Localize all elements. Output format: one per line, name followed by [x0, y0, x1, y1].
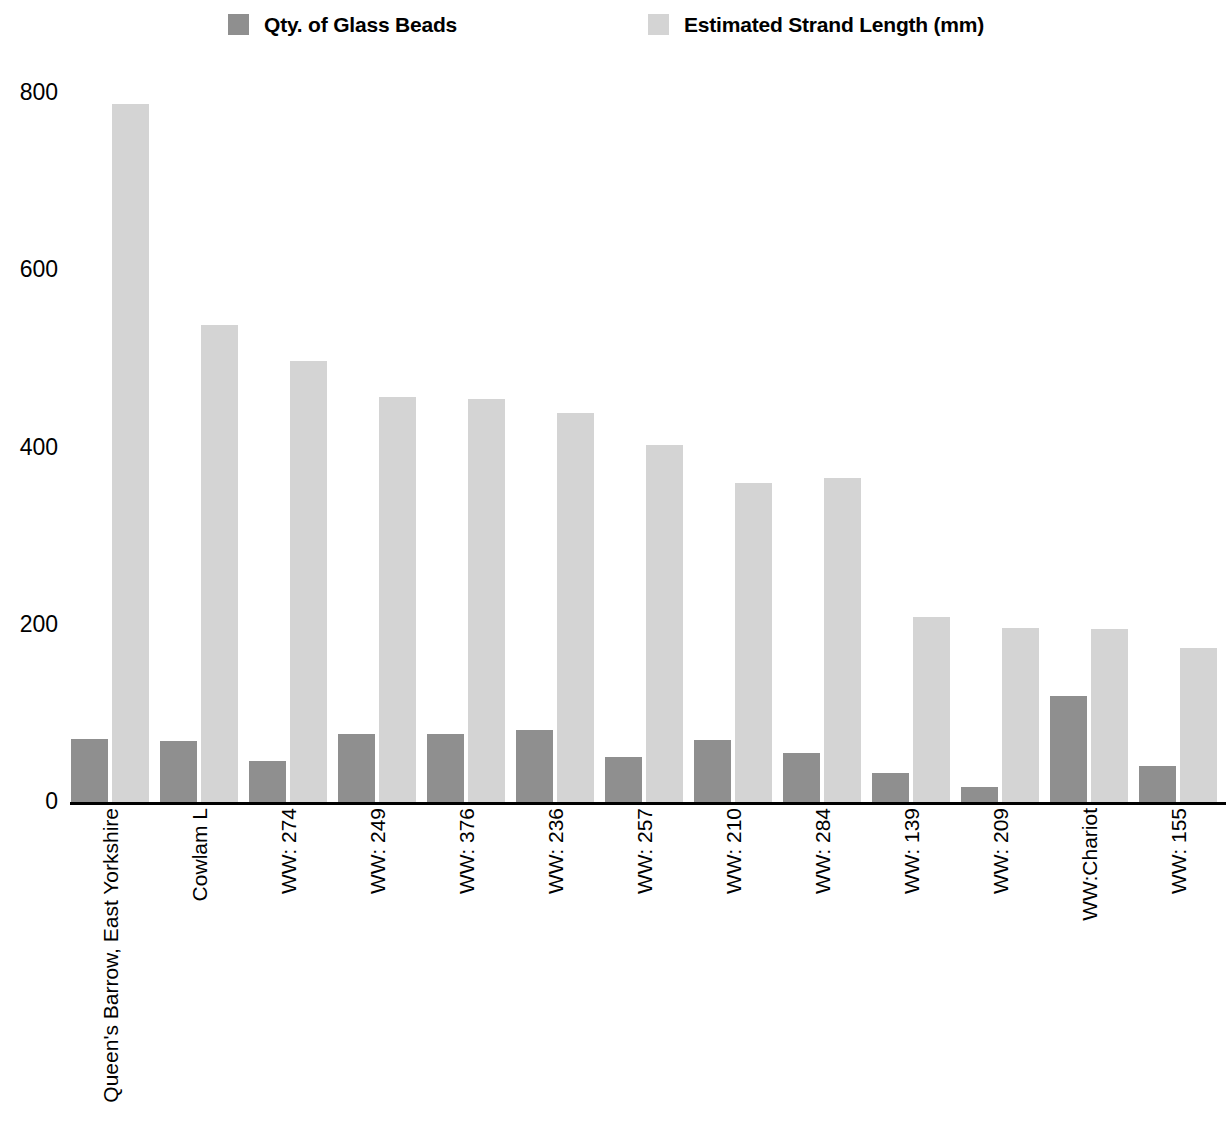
- x-tick-label: WW:Chariot: [1078, 808, 1099, 921]
- x-label-slot: WW: 284: [783, 808, 861, 1108]
- x-tick-label: Queen's Barrow, East Yorkshire: [100, 808, 121, 1103]
- bar-group: [338, 93, 416, 802]
- x-label-slot: WW:Chariot: [1050, 808, 1128, 1108]
- bar-group: [783, 93, 861, 802]
- bar-qty[interactable]: [605, 757, 642, 802]
- bar-strand-length[interactable]: [112, 104, 149, 802]
- x-label-slot: WW: 209: [961, 808, 1039, 1108]
- bar-strand-length[interactable]: [290, 361, 327, 802]
- x-label-slot: WW: 139: [872, 808, 950, 1108]
- x-label-slot: Cowlam L: [160, 808, 238, 1108]
- bar-strand-length[interactable]: [1002, 628, 1039, 802]
- x-tick-label: WW: 249: [367, 808, 388, 894]
- bar-qty[interactable]: [961, 787, 998, 802]
- bar-strand-length[interactable]: [557, 413, 594, 802]
- x-axis-tick-labels: Queen's Barrow, East YorkshireCowlam LWW…: [70, 808, 1226, 1118]
- x-tick-label: WW: 376: [456, 808, 477, 894]
- x-tick-label: WW: 257: [634, 808, 655, 894]
- bar-qty[interactable]: [249, 761, 286, 802]
- y-tick-400: 400: [0, 436, 58, 459]
- plot-area: 8006004002000 Queen's Barrow, East Yorks…: [0, 0, 1226, 1122]
- x-label-slot: WW: 249: [338, 808, 416, 1108]
- bar-qty[interactable]: [516, 730, 553, 802]
- bar-qty[interactable]: [1050, 696, 1087, 802]
- bar-strand-length[interactable]: [913, 617, 950, 802]
- bar-group: [1139, 93, 1217, 802]
- bar-group: [961, 93, 1039, 802]
- x-label-slot: WW: 376: [427, 808, 505, 1108]
- x-tick-label: Cowlam L: [189, 808, 210, 901]
- bar-qty[interactable]: [1139, 766, 1176, 802]
- bar-group: [1050, 93, 1128, 802]
- bar-group: [71, 93, 149, 802]
- x-tick-label: WW: 274: [278, 808, 299, 894]
- bar-chart: Qty. of Glass Beads Estimated Strand Len…: [0, 0, 1226, 1122]
- bar-strand-length[interactable]: [1180, 648, 1217, 802]
- bar-strand-length[interactable]: [1091, 629, 1128, 802]
- bar-group: [872, 93, 950, 802]
- bar-qty[interactable]: [872, 773, 909, 802]
- x-tick-label: WW: 139: [900, 808, 921, 894]
- bar-qty[interactable]: [160, 741, 197, 802]
- bar-strand-length[interactable]: [735, 483, 772, 802]
- bar-strand-length[interactable]: [379, 397, 416, 802]
- x-tick-label: WW: 210: [722, 808, 743, 894]
- x-label-slot: WW: 210: [694, 808, 772, 1108]
- bar-group: [160, 93, 238, 802]
- bar-strand-length[interactable]: [468, 399, 505, 802]
- bar-group: [427, 93, 505, 802]
- bar-group: [605, 93, 683, 802]
- x-label-slot: WW: 236: [516, 808, 594, 1108]
- x-tick-label: WW: 209: [989, 808, 1010, 894]
- x-tick-label: WW: 155: [1167, 808, 1188, 894]
- bar-strand-length[interactable]: [646, 445, 683, 802]
- bar-qty[interactable]: [783, 753, 820, 802]
- y-tick-800: 800: [0, 81, 58, 104]
- bar-qty[interactable]: [694, 740, 731, 802]
- x-tick-label: WW: 284: [811, 808, 832, 894]
- bar-group: [516, 93, 594, 802]
- x-label-slot: Queen's Barrow, East Yorkshire: [71, 808, 149, 1108]
- y-tick-0: 0: [0, 790, 58, 813]
- x-axis-line: [70, 802, 1226, 805]
- x-label-slot: WW: 274: [249, 808, 327, 1108]
- bars-layer: [70, 93, 1226, 802]
- x-label-slot: WW: 155: [1139, 808, 1217, 1108]
- bar-strand-length[interactable]: [201, 325, 238, 802]
- x-label-slot: WW: 257: [605, 808, 683, 1108]
- bar-strand-length[interactable]: [824, 478, 861, 802]
- x-tick-label: WW: 236: [545, 808, 566, 894]
- bar-group: [249, 93, 327, 802]
- y-tick-200: 200: [0, 613, 58, 636]
- bar-group: [694, 93, 772, 802]
- y-tick-600: 600: [0, 258, 58, 281]
- bar-qty[interactable]: [71, 739, 108, 802]
- bar-qty[interactable]: [427, 734, 464, 802]
- bar-qty[interactable]: [338, 734, 375, 802]
